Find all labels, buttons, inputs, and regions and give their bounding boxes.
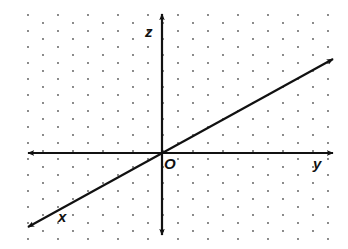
grid-dot bbox=[267, 62, 269, 64]
grid-dot bbox=[192, 150, 194, 152]
x-axis-line bbox=[28, 59, 333, 227]
grid-dot bbox=[207, 14, 209, 16]
grid-dot bbox=[72, 230, 74, 232]
grid-dot bbox=[297, 110, 299, 112]
grid-dot bbox=[207, 30, 209, 32]
grid-dot bbox=[222, 134, 224, 136]
grid-dot bbox=[117, 62, 119, 64]
grid-dot bbox=[237, 174, 239, 176]
grid-dot bbox=[177, 174, 179, 176]
grid-dot bbox=[132, 70, 134, 72]
grid-dot bbox=[207, 78, 209, 80]
grid-dot bbox=[312, 134, 314, 136]
grid-dot bbox=[42, 86, 44, 88]
grid-dot bbox=[132, 230, 134, 232]
grid-dot bbox=[72, 134, 74, 136]
grid-dot bbox=[222, 182, 224, 184]
grid-dot bbox=[282, 198, 284, 200]
grid-dot bbox=[27, 62, 29, 64]
grid-dot bbox=[102, 70, 104, 72]
grid-dot bbox=[72, 102, 74, 104]
grid-dot bbox=[207, 190, 209, 192]
grid-dot bbox=[312, 230, 314, 232]
grid-dot bbox=[327, 46, 329, 48]
grid-dot bbox=[147, 222, 149, 224]
grid-dot bbox=[327, 158, 329, 160]
grid-dot bbox=[27, 126, 29, 128]
labels-group: zyxO bbox=[57, 23, 322, 225]
grid-dot bbox=[267, 206, 269, 208]
grid-dot bbox=[117, 94, 119, 96]
grid-dot bbox=[237, 222, 239, 224]
grid-dot bbox=[87, 94, 89, 96]
grid-dot bbox=[87, 110, 89, 112]
grid-dot bbox=[177, 30, 179, 32]
grid-dot bbox=[252, 198, 254, 200]
grid-dot bbox=[87, 78, 89, 80]
grid-dot bbox=[147, 46, 149, 48]
grid-dot bbox=[72, 118, 74, 120]
grid-dot bbox=[282, 102, 284, 104]
grid-dot bbox=[237, 206, 239, 208]
grid-dot bbox=[132, 150, 134, 152]
grid-dot bbox=[87, 158, 89, 160]
grid-dot bbox=[237, 94, 239, 96]
grid-dot bbox=[57, 190, 59, 192]
grid-dot bbox=[57, 30, 59, 32]
grid-dot bbox=[132, 54, 134, 56]
grid-dot bbox=[117, 14, 119, 16]
grid-dot bbox=[267, 14, 269, 16]
grid-dot bbox=[147, 110, 149, 112]
grid-dot bbox=[177, 158, 179, 160]
grid-dot bbox=[117, 206, 119, 208]
grid-dot bbox=[237, 30, 239, 32]
grid-dot bbox=[312, 182, 314, 184]
grid-dot bbox=[102, 38, 104, 40]
grid-dot bbox=[132, 38, 134, 40]
grid-dot bbox=[72, 54, 74, 56]
grid-dot bbox=[132, 198, 134, 200]
grid-dot bbox=[282, 182, 284, 184]
grid-dot bbox=[57, 110, 59, 112]
grid-dot bbox=[297, 158, 299, 160]
grid-dot bbox=[282, 22, 284, 24]
grid-dot bbox=[87, 174, 89, 176]
grid-dot bbox=[267, 222, 269, 224]
grid-dot bbox=[177, 78, 179, 80]
grid-dot bbox=[267, 158, 269, 160]
grid-dot bbox=[177, 126, 179, 128]
grid-dot bbox=[327, 206, 329, 208]
grid-dot bbox=[237, 46, 239, 48]
grid-dot bbox=[222, 38, 224, 40]
grid-dot bbox=[72, 150, 74, 152]
grid-dot bbox=[87, 222, 89, 224]
grid-dot bbox=[117, 30, 119, 32]
grid-dot bbox=[42, 150, 44, 152]
grid-dot bbox=[207, 238, 209, 240]
grid-dot bbox=[87, 190, 89, 192]
grid-dot bbox=[87, 206, 89, 208]
grid-dot bbox=[57, 158, 59, 160]
grid-dot bbox=[102, 86, 104, 88]
grid-dot bbox=[147, 190, 149, 192]
grid-dot bbox=[147, 206, 149, 208]
grid-dot bbox=[237, 78, 239, 80]
grid-dot bbox=[147, 142, 149, 144]
grid-dot bbox=[282, 70, 284, 72]
grid-dot bbox=[222, 166, 224, 168]
grid-dot bbox=[132, 214, 134, 216]
grid-dot bbox=[282, 214, 284, 216]
grid-dot bbox=[207, 94, 209, 96]
grid-dot bbox=[252, 230, 254, 232]
grid-dot bbox=[177, 206, 179, 208]
grid-dot bbox=[27, 110, 29, 112]
grid-dot bbox=[312, 214, 314, 216]
grid-dot bbox=[27, 174, 29, 176]
grid-dot bbox=[102, 230, 104, 232]
grid-dot bbox=[327, 14, 329, 16]
grid-dot bbox=[192, 166, 194, 168]
grid-dot bbox=[252, 86, 254, 88]
grid-dot bbox=[177, 62, 179, 64]
grid-dot bbox=[147, 62, 149, 64]
grid-dot bbox=[147, 174, 149, 176]
